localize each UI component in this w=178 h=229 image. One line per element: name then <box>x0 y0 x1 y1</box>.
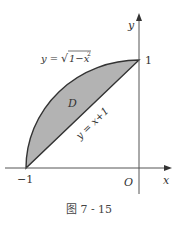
curve-label: y = √ 1−x 2 <box>40 50 91 65</box>
y-axis-arrow-icon <box>136 13 142 21</box>
region-label: D <box>67 97 77 110</box>
svg-text:√: √ <box>61 52 69 65</box>
region-d <box>26 60 139 168</box>
tick-label-xm1: −1 <box>17 173 33 186</box>
svg-text:2: 2 <box>87 50 91 57</box>
y-axis-label: y <box>127 19 135 32</box>
tick-label-y1: 1 <box>145 54 152 67</box>
origin-label: O <box>124 176 133 189</box>
figure-caption: 图 7 - 15 <box>0 200 178 216</box>
diagram-canvas: y x O 1 −1 D y = √ 1−x 2 y = x+1 <box>0 0 178 229</box>
x-axis-label: x <box>163 174 170 187</box>
svg-text:y =: y = <box>40 53 58 64</box>
x-axis-arrow-icon <box>164 165 172 171</box>
